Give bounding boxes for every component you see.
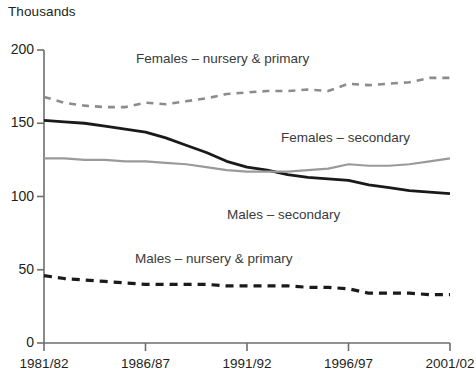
x-axis-tick-label: 1986/87 <box>101 357 191 371</box>
x-axis-tick-label: 1981/82 <box>0 357 89 371</box>
series-annotation-3: Males – secondary <box>227 208 340 222</box>
x-axis-tick-label: 2001/02 <box>405 357 476 371</box>
y-axis-tick-label: 200 <box>0 42 34 56</box>
series-annotation-1: Females – nursery & primary <box>136 52 309 66</box>
series-annotation-4: Males – nursery & primary <box>135 252 293 266</box>
series-annotation-2: Females – secondary <box>281 131 410 145</box>
line-chart: Thousands 050100150200 1981/821986/87199… <box>0 0 476 381</box>
y-axis-tick-label: 50 <box>0 262 34 276</box>
series-line-3 <box>44 158 450 171</box>
y-axis-tick-label: 100 <box>0 189 34 203</box>
chart-axes <box>37 50 450 351</box>
series-line-4 <box>44 276 450 295</box>
series-line-1 <box>44 78 450 107</box>
x-axis-tick-label: 1996/97 <box>304 357 394 371</box>
x-axis-tick-label: 1991/92 <box>202 357 292 371</box>
y-axis-tick-label: 150 <box>0 115 34 129</box>
y-axis-tick-label: 0 <box>0 335 34 349</box>
